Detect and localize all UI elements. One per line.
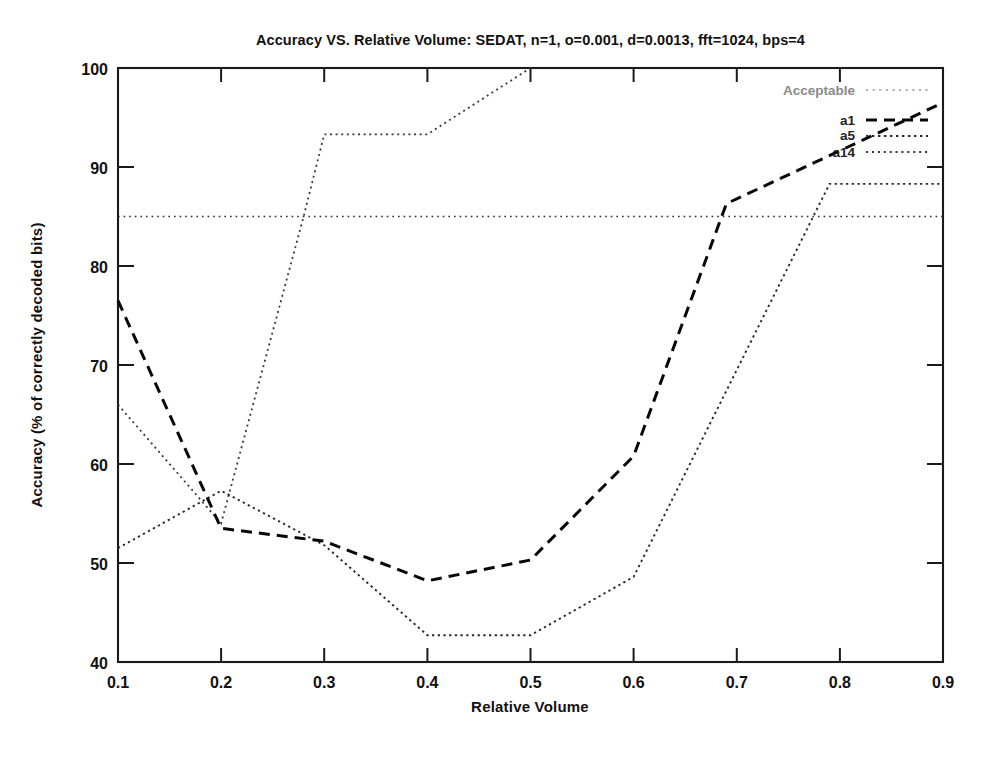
y-axis-label: Accuracy (% of correctly decoded bits) [28, 222, 45, 507]
x-tick-label-4: 0.5 [519, 674, 541, 691]
x-tick-label-6: 0.7 [726, 674, 748, 691]
legend-label-a1[interactable]: a1 [840, 113, 856, 128]
x-tick-label-3: 0.4 [416, 674, 438, 691]
y-tick-label-70: 70 [90, 358, 108, 375]
legend-label-a14[interactable]: a14 [832, 145, 855, 160]
chart-title: Accuracy VS. Relative Volume: SEDAT, n=1… [256, 32, 805, 48]
x-tick-label-5: 0.6 [622, 674, 644, 691]
x-tick-label-0: 0.1 [107, 674, 129, 691]
x-tick-label-2: 0.3 [313, 674, 335, 691]
x-tick-label-1: 0.2 [210, 674, 232, 691]
x-tick-label-7: 0.8 [829, 674, 851, 691]
accuracy-vs-relative-volume-chart: Accuracy VS. Relative Volume: SEDAT, n=1… [0, 0, 992, 759]
legend-label-acceptable[interactable]: Acceptable [783, 83, 856, 98]
legend-label-a5[interactable]: a5 [840, 128, 856, 143]
x-axis-label: Relative Volume [471, 698, 589, 715]
x-tick-label-8: 0.9 [932, 674, 954, 691]
y-tick-label-100: 100 [81, 61, 108, 78]
y-tick-label-40: 40 [90, 655, 108, 672]
y-tick-label-80: 80 [90, 259, 108, 276]
y-tick-label-60: 60 [90, 457, 108, 474]
y-tick-label-50: 50 [90, 556, 108, 573]
chart-figure: Accuracy VS. Relative Volume: SEDAT, n=1… [0, 0, 992, 759]
y-tick-label-90: 90 [90, 160, 108, 177]
